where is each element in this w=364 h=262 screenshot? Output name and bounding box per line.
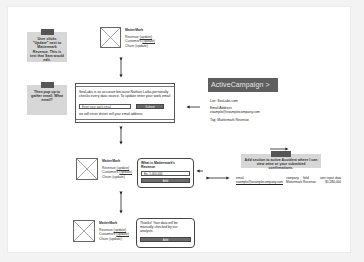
activecampaign-logo: ActiveCampaign > — [208, 78, 278, 92]
tape-icon — [41, 82, 54, 88]
email-value: example@examplecompany.com — [210, 110, 260, 114]
thanks-text: Thanks! Your data will be manually check… — [140, 221, 191, 234]
sticky-note-update: User clicks "Update" next to Mattermark … — [27, 32, 67, 62]
record-company-col: company Mattermark — [286, 176, 302, 184]
value-company: Mattermark — [286, 180, 302, 184]
tag-label: Tag: Mattermark Revenue — [210, 118, 260, 122]
note-text: Then pop up to gather email. What email? — [31, 90, 63, 102]
image-placeholder-icon — [77, 159, 97, 179]
metric-row: Churn (update) — [125, 44, 170, 48]
popup-footer-bar — [76, 119, 174, 122]
record-input-col: user input data $1,284,000 — [320, 176, 341, 184]
question-text: What is Mattermark's Revenue — [141, 161, 190, 169]
update-link[interactable]: (update) — [135, 44, 148, 48]
revenue-input[interactable]: Ex. 1,000,000 — [141, 171, 190, 176]
list-label: List: SeoLabs.com — [210, 99, 260, 103]
record-email-col: email example@examplecompany.com — [236, 176, 283, 184]
value-email: example@examplecompany.com — [236, 180, 283, 184]
value-input: $1,284,000 — [320, 180, 341, 184]
record-field-col: field Revenue — [303, 176, 316, 184]
update-link[interactable]: (update) — [112, 175, 125, 179]
email-input[interactable]: Enter your work email — [79, 104, 131, 109]
tape-icon — [271, 151, 291, 157]
add-button[interactable]: Add — [141, 178, 190, 183]
image-placeholder — [73, 220, 95, 242]
revenue-question-bubble: What is Mattermark's Revenue Ex. 1,000,0… — [137, 158, 194, 188]
note-text: User clicks "Update" next to Mattermark … — [30, 37, 64, 62]
popup-header-bar — [76, 84, 174, 87]
tape-icon — [41, 29, 54, 35]
popup-text: SeoLabs is so accurate because Nathan La… — [79, 90, 171, 98]
image-placeholder-icon — [74, 221, 94, 241]
activecampaign-info: List: SeoLabs.com Email Address example@… — [210, 99, 260, 125]
privacy-note: we will never distort sell your email ad… — [79, 112, 142, 116]
sticky-note-section: Add section to active Accident where I c… — [241, 154, 321, 168]
company-name: MatterMark — [125, 28, 170, 32]
submit-button[interactable]: Submit — [136, 104, 164, 109]
metric-row: Churn (update) — [99, 237, 139, 241]
sticky-note-email: Then pop up to gather email. What email? — [27, 85, 67, 115]
thanks-bubble: Thanks! Your data will be manually check… — [136, 218, 195, 248]
image-placeholder — [100, 27, 121, 48]
company-name: MatterMark — [99, 221, 139, 225]
update-link[interactable]: (update) — [109, 237, 122, 241]
company-name: MatterMark — [102, 159, 142, 163]
add-button[interactable]: Add — [140, 237, 191, 242]
metric-row: Churn (update) — [102, 175, 142, 179]
value-field: Revenue — [303, 180, 316, 184]
image-placeholder — [76, 158, 98, 180]
image-placeholder-icon — [101, 28, 120, 47]
email-popup: SeoLabs is so accurate because Nathan La… — [75, 83, 175, 123]
